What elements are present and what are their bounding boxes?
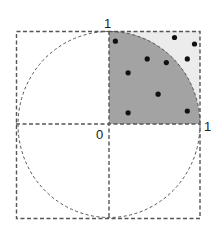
sample-point xyxy=(164,60,169,65)
sample-point xyxy=(156,92,161,97)
sample-point xyxy=(185,108,190,113)
monte-carlo-diagram: 1 0 1 xyxy=(0,0,219,232)
label-top-1: 1 xyxy=(104,16,111,31)
sample-point xyxy=(113,39,118,44)
sample-point xyxy=(185,56,190,61)
sample-point xyxy=(126,110,131,115)
sample-point xyxy=(192,41,197,46)
sample-point xyxy=(172,35,177,40)
label-origin-0: 0 xyxy=(96,127,103,142)
sample-point xyxy=(145,56,150,61)
sample-point xyxy=(126,70,131,75)
label-right-1: 1 xyxy=(204,119,211,134)
